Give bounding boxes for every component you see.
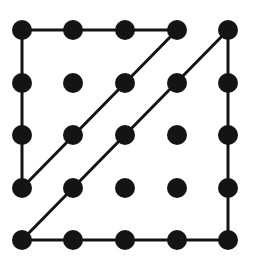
lattice-dot — [12, 20, 32, 40]
lattice-dot — [167, 178, 187, 198]
dot-grid-figure — [0, 0, 253, 271]
lattice-dot — [63, 125, 83, 145]
lattice-dot — [167, 20, 187, 40]
lattice-dot — [218, 73, 238, 93]
lattice-dot — [12, 178, 32, 198]
lattice-dot — [218, 178, 238, 198]
lattice-dot — [63, 73, 83, 93]
lattice-dot — [167, 125, 187, 145]
figure-canvas — [0, 0, 253, 271]
lattice-dot — [115, 230, 135, 250]
lattice-dot — [167, 230, 187, 250]
lattice-dot — [63, 20, 83, 40]
lattice-dot — [115, 125, 135, 145]
lattice-dot — [63, 230, 83, 250]
lattice-dot — [12, 73, 32, 93]
lattice-dot — [218, 20, 238, 40]
lattice-dot — [218, 230, 238, 250]
lattice-dot — [115, 73, 135, 93]
lattice-dot — [63, 178, 83, 198]
lattice-dot — [218, 125, 238, 145]
lattice-dot — [167, 73, 187, 93]
lattice-dot — [12, 125, 32, 145]
lattice-dot — [115, 178, 135, 198]
lattice-dot — [115, 20, 135, 40]
lattice-dot — [12, 230, 32, 250]
